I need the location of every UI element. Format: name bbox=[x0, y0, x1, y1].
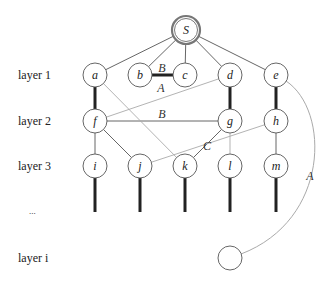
node-label-a: a bbox=[92, 68, 98, 82]
node-label-c: c bbox=[182, 68, 188, 82]
layer-label-2: layer 2 bbox=[18, 114, 51, 128]
node-S: S bbox=[172, 16, 200, 44]
node-h: h bbox=[264, 109, 288, 133]
edge-label-f-g: B bbox=[158, 107, 166, 121]
node-label-h: h bbox=[273, 114, 279, 128]
node-label-b: b bbox=[137, 68, 143, 82]
node-label-m: m bbox=[272, 159, 281, 173]
node-b: b bbox=[128, 63, 152, 87]
node-m: m bbox=[264, 154, 288, 178]
node-label-g: g bbox=[227, 114, 233, 128]
edge-label-g-k: C bbox=[203, 139, 212, 153]
node-c: c bbox=[173, 63, 197, 87]
node-l: l bbox=[218, 154, 242, 178]
edge-label-b-c: B bbox=[158, 61, 166, 75]
layer-ellipsis: ... bbox=[29, 206, 36, 216]
node-layer-i bbox=[218, 246, 242, 270]
node-e: e bbox=[264, 63, 288, 87]
node-g: g bbox=[218, 109, 242, 133]
edge-f-j bbox=[103, 129, 131, 157]
edge-label-d-f: A bbox=[156, 81, 165, 95]
layer-labels: layer 1 layer 2 layer 3 ... layer i bbox=[18, 68, 51, 265]
node-label-S: S bbox=[183, 23, 189, 37]
node-label-d: d bbox=[227, 68, 234, 82]
layer-label-1: layer 1 bbox=[18, 68, 51, 82]
node-label-e: e bbox=[273, 68, 279, 82]
node-a: a bbox=[83, 63, 107, 87]
node-f: f bbox=[83, 109, 107, 133]
node-label-i: i bbox=[93, 159, 96, 173]
layer-label-3: layer 3 bbox=[18, 159, 51, 173]
stubs bbox=[95, 178, 276, 212]
layered-graph-diagram: Sabcdefghijklm BABCA layer 1 layer 2 lay… bbox=[0, 0, 330, 286]
node-circle bbox=[218, 246, 242, 270]
node-label-k: k bbox=[182, 159, 188, 173]
node-i: i bbox=[83, 154, 107, 178]
node-d: d bbox=[218, 63, 242, 87]
edge-S-d bbox=[196, 40, 222, 66]
node-k: k bbox=[173, 154, 197, 178]
node-j: j bbox=[128, 154, 152, 178]
layer-label-i: layer i bbox=[18, 251, 49, 265]
edge-label-e-z: A bbox=[305, 169, 314, 183]
